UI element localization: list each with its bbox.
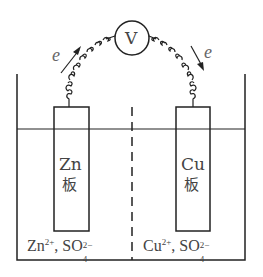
beaker (17, 74, 245, 260)
electron-label-right: e (204, 42, 212, 63)
electron-arrow-right (191, 46, 204, 71)
cu-plate-label: Cu (181, 156, 205, 173)
electron-arrow-left (61, 46, 81, 73)
right-solution-ions: Cu2+, SO2−4 (143, 238, 210, 254)
cu-plate-suffix: 板 (184, 178, 199, 193)
left-solution-ions: Zn2+, SO2−4 (27, 238, 93, 254)
wire-right (149, 36, 196, 107)
zn-plate-label: Zn (59, 156, 82, 173)
zn-plate-suffix: 板 (62, 178, 77, 193)
electron-label-left: e (52, 45, 60, 66)
wire-left (66, 36, 115, 107)
voltmeter-label: V (125, 30, 137, 47)
